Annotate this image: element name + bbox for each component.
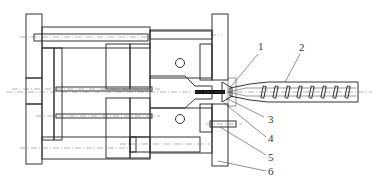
label-4: 4 [268,132,274,144]
cooling-channel-top [176,59,185,68]
cavity-block [150,30,225,153]
leader-1 [228,54,258,90]
cooling-channel-bottom [176,115,185,124]
label-5: 5 [268,151,274,163]
ejector-plate [42,48,62,140]
guide-pin [120,137,210,152]
leader-2 [285,54,300,82]
label-3: 3 [268,113,274,125]
leader-4 [224,103,266,137]
support-block [106,44,150,158]
ejector-pins [12,87,160,118]
diagram-canvas: 1 2 3 4 5 6 [0,0,379,187]
mold-diagram: 1 2 3 4 5 6 [0,0,379,187]
label-1: 1 [258,40,264,52]
leader-lines [218,54,300,171]
label-2: 2 [299,41,305,53]
label-6: 6 [268,165,274,177]
right-plate-bolts [206,121,242,127]
